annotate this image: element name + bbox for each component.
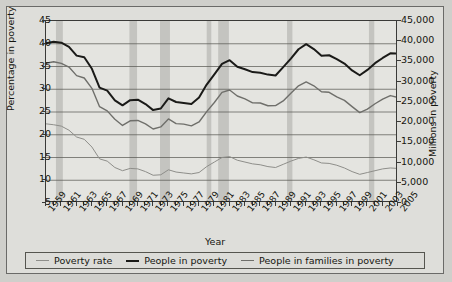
left-tick-mark (42, 20, 45, 21)
right-tick-label: 40,000 (401, 35, 434, 45)
series-line (46, 124, 397, 175)
right-tick-mark (397, 162, 401, 163)
right-tick-label: 10,000 (401, 157, 434, 167)
left-tick-mark (42, 66, 45, 67)
left-tick-mark (42, 43, 45, 44)
right-tick-mark (397, 20, 401, 21)
legend-swatch (126, 260, 139, 262)
legend-label: Poverty rate (54, 256, 112, 266)
right-tick-label: 5,000 (401, 177, 428, 187)
right-tick-label: 20,000 (401, 116, 434, 126)
right-tick-label: 25,000 (401, 96, 434, 106)
right-tick-label: 35,000 (401, 55, 434, 65)
left-tick-mark (42, 179, 45, 180)
right-tick-mark (397, 141, 401, 142)
legend-item[interactable]: People in families in poverty (241, 256, 394, 266)
series-lines (46, 21, 397, 202)
series-line (46, 62, 397, 129)
legend-item[interactable]: Poverty rate (36, 256, 112, 266)
x-axis-title: Year (205, 237, 225, 247)
right-tick-mark (397, 60, 401, 61)
right-tick-label: 45,000 (401, 15, 434, 25)
legend-label: People in families in poverty (259, 256, 394, 266)
right-tick-mark (397, 182, 401, 183)
chart-legend: Poverty ratePeople in povertyPeople in f… (25, 252, 425, 269)
left-tick-mark (42, 157, 45, 158)
plot-area (45, 20, 397, 202)
right-tick-mark (397, 40, 401, 41)
chart-figure: Percentage in poverty Millions in povert… (6, 6, 444, 274)
plot-canvas (45, 20, 397, 202)
left-tick-mark (42, 134, 45, 135)
right-tick-mark (397, 101, 401, 102)
legend-swatch (36, 260, 49, 261)
right-tick-label: 30,000 (401, 76, 434, 86)
right-tick-mark (397, 121, 401, 122)
left-axis-title: Percentage in poverty (6, 6, 16, 111)
left-tick-mark (42, 88, 45, 89)
legend-swatch (241, 260, 254, 261)
legend-label: People in poverty (144, 256, 227, 266)
x-tick-mark (45, 202, 46, 206)
left-tick-mark (42, 111, 45, 112)
right-tick-mark (397, 81, 401, 82)
legend-item[interactable]: People in poverty (126, 256, 227, 266)
right-tick-label: 15,000 (401, 136, 434, 146)
